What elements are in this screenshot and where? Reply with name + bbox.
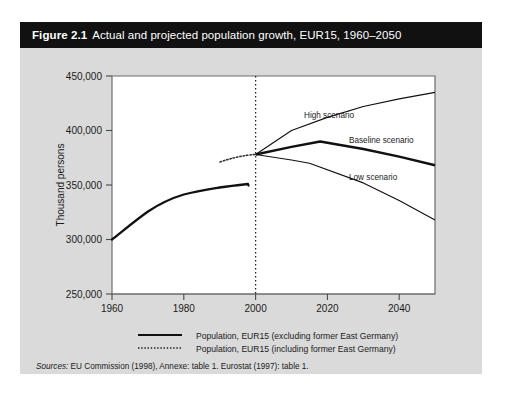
figure-number: Figure 2.1 xyxy=(32,29,87,41)
annotation-low-scenario: Low scenario xyxy=(349,173,398,182)
population-growth-line-chart: 450,000 400,000 350,000 300,000 250,000 … xyxy=(20,48,482,374)
chart-area: 450,000 400,000 350,000 300,000 250,000 … xyxy=(20,48,482,374)
y-axis-title: Thousand persons xyxy=(55,144,66,227)
y-tick-label-350000: 350,000 xyxy=(66,180,103,191)
source-note-prefix: Sources: xyxy=(36,362,68,371)
y-tick-label-450000: 450,000 xyxy=(66,71,103,82)
annotation-baseline-scenario: Baseline scenario xyxy=(349,136,414,145)
plot-panel xyxy=(112,76,435,294)
legend-label-excluding-east-germany: Population, EUR15 (excluding former East… xyxy=(196,331,398,341)
x-tick-label-2020: 2020 xyxy=(316,303,339,314)
annotation-high-scenario: High scenario xyxy=(304,111,355,120)
x-tick-label-2000: 2000 xyxy=(244,303,267,314)
x-axis-ticks xyxy=(112,294,399,300)
legend-label-including-east-germany: Population, EUR15 (including former East… xyxy=(196,344,396,354)
y-tick-label-250000: 250,000 xyxy=(66,289,103,300)
x-tick-label-2040: 2040 xyxy=(388,303,411,314)
source-note: Sources: EU Commission (1998), Annexe: t… xyxy=(36,362,309,371)
figure-title-bar: Figure 2.1 Actual and projected populati… xyxy=(20,22,482,48)
y-tick-label-400000: 400,000 xyxy=(66,125,103,136)
x-tick-label-1980: 1980 xyxy=(173,303,196,314)
source-note-text: EU Commission (1998), Annexe: table 1. E… xyxy=(68,362,308,371)
y-tick-label-300000: 300,000 xyxy=(66,234,103,245)
y-axis-ticks xyxy=(106,76,112,294)
figure-title: Actual and projected population growth, … xyxy=(92,29,401,41)
chart-legend: Population, EUR15 (excluding former East… xyxy=(138,331,398,354)
x-tick-label-1960: 1960 xyxy=(101,303,124,314)
figure-container: Figure 2.1 Actual and projected populati… xyxy=(20,22,482,374)
